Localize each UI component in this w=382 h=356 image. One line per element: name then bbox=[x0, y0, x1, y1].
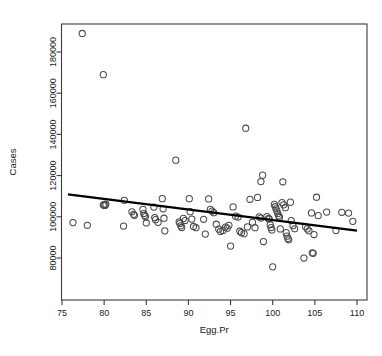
data-point bbox=[308, 210, 314, 216]
data-point bbox=[277, 226, 283, 232]
plot-frame bbox=[62, 24, 368, 300]
x-tick-label: 105 bbox=[307, 308, 322, 318]
x-tick-label: 95 bbox=[226, 308, 236, 318]
data-point bbox=[173, 157, 179, 163]
data-point-group bbox=[70, 30, 356, 270]
data-point bbox=[280, 179, 286, 185]
data-point bbox=[258, 178, 264, 184]
data-point bbox=[339, 209, 345, 215]
data-point bbox=[206, 196, 212, 202]
data-point bbox=[301, 255, 307, 261]
data-point bbox=[230, 204, 236, 210]
x-tick-label: 90 bbox=[183, 308, 193, 318]
data-point bbox=[243, 125, 249, 131]
data-point bbox=[345, 210, 351, 216]
x-tick-label: 100 bbox=[265, 308, 280, 318]
data-point bbox=[84, 222, 90, 228]
data-point bbox=[287, 199, 293, 205]
y-tick-label: 180000 bbox=[48, 37, 58, 67]
y-tick-label: 100000 bbox=[48, 202, 58, 232]
data-point bbox=[311, 231, 317, 237]
data-point bbox=[313, 194, 319, 200]
x-axis-title: Egg.Pr bbox=[200, 324, 229, 335]
data-point bbox=[247, 196, 253, 202]
y-tick-label: 80000 bbox=[48, 245, 58, 270]
data-point bbox=[244, 224, 250, 230]
data-point bbox=[70, 219, 76, 225]
data-point bbox=[186, 196, 192, 202]
scatter-plot-figure: 7580859095100105110800001000001200001400… bbox=[0, 0, 382, 356]
x-tick-label: 80 bbox=[99, 308, 109, 318]
data-point bbox=[254, 194, 260, 200]
regression-line bbox=[68, 194, 357, 230]
data-point bbox=[260, 238, 266, 244]
x-tick-label: 110 bbox=[350, 308, 364, 318]
plot-canvas: 7580859095100105110800001000001200001400… bbox=[0, 0, 382, 356]
data-point bbox=[143, 220, 149, 226]
y-tick-label: 160000 bbox=[48, 78, 58, 108]
data-point bbox=[201, 216, 207, 222]
data-point bbox=[189, 216, 195, 222]
data-point bbox=[260, 172, 266, 178]
x-tick-label: 75 bbox=[57, 308, 67, 318]
data-point bbox=[227, 243, 233, 249]
y-tick-label: 140000 bbox=[48, 119, 58, 149]
data-point bbox=[162, 228, 168, 234]
x-tick-label: 85 bbox=[141, 308, 151, 318]
data-point bbox=[202, 231, 208, 237]
data-point bbox=[79, 30, 85, 36]
data-point bbox=[324, 209, 330, 215]
data-point bbox=[252, 225, 258, 231]
y-axis-title: Cases bbox=[7, 148, 18, 175]
data-point bbox=[350, 218, 356, 224]
data-point bbox=[161, 215, 167, 221]
data-point bbox=[315, 212, 321, 218]
data-point bbox=[270, 264, 276, 270]
data-point bbox=[159, 196, 165, 202]
data-point bbox=[100, 72, 106, 78]
y-tick-label: 120000 bbox=[48, 161, 58, 191]
data-point bbox=[120, 223, 126, 229]
